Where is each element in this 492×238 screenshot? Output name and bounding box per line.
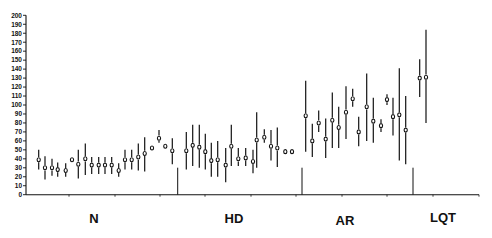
point-range bbox=[130, 150, 133, 170]
y-tick-label: 130 bbox=[11, 74, 22, 81]
point-range bbox=[90, 157, 93, 174]
mean-marker-icon bbox=[379, 124, 382, 128]
point-range bbox=[357, 117, 360, 147]
point-range bbox=[37, 150, 40, 170]
point-range bbox=[150, 146, 153, 150]
mean-marker-icon bbox=[230, 144, 233, 148]
point-range bbox=[398, 68, 401, 160]
mean-marker-icon bbox=[284, 150, 287, 154]
y-tick-label: 160 bbox=[11, 47, 22, 54]
point-range bbox=[84, 144, 87, 175]
mean-marker-icon bbox=[276, 146, 279, 150]
y-tick-label: 60 bbox=[15, 137, 23, 144]
mean-marker-icon bbox=[269, 144, 272, 148]
mean-marker-icon bbox=[344, 110, 347, 114]
point-range-chart: 0102030405060708090100110120130140150160… bbox=[0, 0, 492, 238]
mean-marker-icon bbox=[164, 144, 167, 148]
point-range bbox=[304, 81, 307, 152]
mean-marker-icon bbox=[64, 168, 67, 172]
mean-marker-icon bbox=[385, 98, 388, 102]
mean-marker-icon bbox=[424, 75, 427, 79]
point-range bbox=[123, 150, 126, 170]
point-range bbox=[56, 162, 59, 176]
point-range bbox=[284, 150, 287, 154]
mean-marker-icon bbox=[90, 163, 93, 167]
mean-marker-icon bbox=[143, 151, 146, 155]
point-range bbox=[331, 92, 334, 148]
mean-marker-icon bbox=[331, 118, 334, 122]
mean-marker-icon bbox=[337, 125, 340, 129]
point-range bbox=[64, 163, 67, 176]
point-range bbox=[365, 74, 368, 141]
y-tick-label: 70 bbox=[15, 128, 23, 135]
y-tick-label: 170 bbox=[11, 39, 22, 46]
mean-marker-icon bbox=[130, 158, 133, 162]
mean-marker-icon bbox=[97, 163, 100, 167]
y-tick-label: 120 bbox=[11, 83, 22, 90]
mean-marker-icon bbox=[171, 149, 174, 153]
mean-marker-icon bbox=[191, 143, 194, 147]
point-range bbox=[372, 98, 375, 143]
point-range bbox=[251, 150, 254, 173]
mean-marker-icon bbox=[117, 168, 120, 172]
mean-marker-icon bbox=[357, 130, 360, 134]
point-range bbox=[269, 130, 272, 160]
y-tick-label: 80 bbox=[15, 119, 23, 126]
data-points bbox=[37, 30, 428, 182]
mean-marker-icon bbox=[263, 135, 266, 139]
mean-marker-icon bbox=[204, 150, 207, 154]
y-tick-label: 150 bbox=[11, 56, 22, 63]
y-tick-label: 110 bbox=[12, 92, 23, 99]
point-range bbox=[237, 148, 240, 166]
point-range bbox=[164, 144, 167, 148]
group-separators bbox=[178, 168, 413, 195]
group-label-lqt: LQT bbox=[430, 210, 456, 225]
point-range bbox=[391, 98, 394, 136]
mean-marker-icon bbox=[351, 97, 354, 101]
point-range bbox=[97, 157, 100, 174]
mean-marker-icon bbox=[150, 146, 153, 150]
mean-marker-icon bbox=[37, 158, 40, 162]
y-tick-label: 200 bbox=[11, 12, 22, 19]
mean-marker-icon bbox=[216, 158, 219, 162]
mean-marker-icon bbox=[372, 119, 375, 123]
y-tick-label: 20 bbox=[15, 173, 23, 180]
point-range bbox=[70, 158, 73, 162]
point-range bbox=[77, 150, 80, 179]
mean-marker-icon bbox=[391, 115, 394, 119]
mean-marker-icon bbox=[110, 163, 113, 167]
mean-marker-icon bbox=[210, 159, 213, 163]
point-range bbox=[204, 134, 207, 170]
point-range bbox=[171, 138, 174, 164]
y-tick-label: 100 bbox=[11, 101, 22, 108]
group-label-n: N bbox=[89, 211, 98, 226]
mean-marker-icon bbox=[418, 76, 421, 80]
point-range bbox=[210, 143, 213, 177]
point-range bbox=[351, 89, 354, 107]
y-tick-label: 30 bbox=[15, 164, 23, 171]
mean-marker-icon bbox=[398, 113, 401, 117]
mean-marker-icon bbox=[123, 158, 126, 162]
point-range bbox=[43, 156, 46, 179]
mean-marker-icon bbox=[304, 114, 307, 118]
point-range bbox=[276, 127, 279, 166]
point-range bbox=[198, 125, 201, 168]
y-tick-label: 90 bbox=[15, 110, 23, 117]
y-tick-label: 10 bbox=[15, 182, 23, 189]
point-range bbox=[110, 157, 113, 174]
y-tick-label: 40 bbox=[15, 155, 23, 162]
mean-marker-icon bbox=[290, 150, 293, 154]
point-range bbox=[311, 124, 314, 157]
point-range bbox=[255, 112, 258, 168]
mean-marker-icon bbox=[185, 149, 188, 153]
point-range bbox=[157, 130, 160, 143]
mean-marker-icon bbox=[324, 137, 327, 141]
mean-marker-icon bbox=[251, 160, 254, 164]
point-range bbox=[424, 30, 427, 123]
mean-marker-icon bbox=[198, 145, 201, 149]
point-range bbox=[50, 159, 53, 176]
point-range bbox=[244, 148, 247, 166]
point-range bbox=[263, 129, 266, 142]
mean-marker-icon bbox=[103, 163, 106, 167]
group-label-hd: HD bbox=[225, 211, 244, 226]
